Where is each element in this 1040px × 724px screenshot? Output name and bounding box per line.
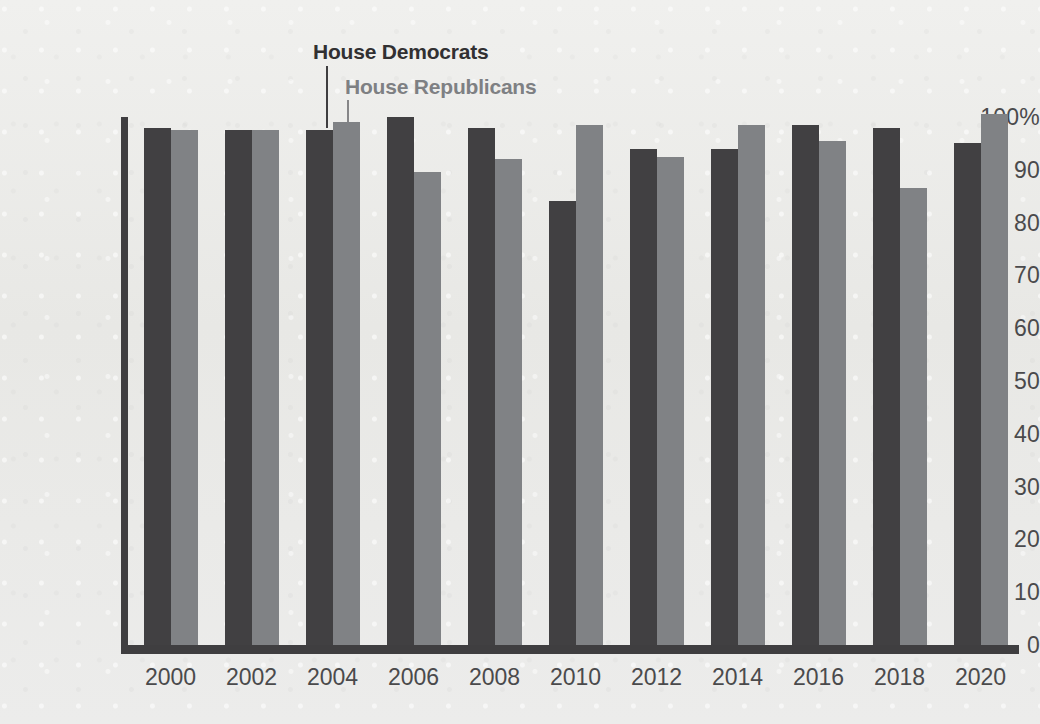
x-axis-tick-2006: 2006 — [388, 664, 439, 691]
x-axis-tick-2018: 2018 — [874, 664, 925, 691]
bar-2006-democrats — [387, 117, 414, 645]
x-axis-tick-2012: 2012 — [631, 664, 682, 691]
bar-2008-republicans — [495, 159, 522, 645]
legend-leader-line-democrats — [326, 66, 328, 128]
bar-2004-republicans — [333, 122, 360, 645]
y-axis-line — [121, 117, 128, 645]
bar-2016-democrats — [792, 125, 819, 645]
bar-2008-democrats — [468, 128, 495, 645]
bar-2010-republicans — [576, 125, 603, 645]
bar-2004-democrats — [306, 130, 333, 645]
x-axis-line — [121, 645, 1019, 654]
legend-leader-line-republicans — [347, 100, 349, 122]
bar-2016-republicans — [819, 141, 846, 645]
bar-group-2004 — [306, 117, 360, 645]
x-axis-tick-2016: 2016 — [793, 664, 844, 691]
x-axis-tick-2008: 2008 — [469, 664, 520, 691]
bar-2000-republicans — [171, 130, 198, 645]
grouped-bar-chart: 100%9080706050403020100 2000200220042006… — [0, 0, 1040, 724]
legend-label-house-democrats: House Democrats — [313, 40, 489, 64]
x-axis-tick-2000: 2000 — [145, 664, 196, 691]
x-axis-tick-2004: 2004 — [307, 664, 358, 691]
bar-group-2012 — [630, 117, 684, 645]
bar-2014-republicans — [738, 125, 765, 645]
bar-2012-republicans — [657, 157, 684, 645]
x-axis-tick-2020: 2020 — [955, 664, 1006, 691]
bar-group-2008 — [468, 117, 522, 645]
bar-2012-democrats — [630, 149, 657, 645]
bar-2002-democrats — [225, 130, 252, 645]
bar-group-2002 — [225, 117, 279, 645]
legend-label-house-republicans: House Republicans — [345, 75, 536, 99]
bar-2014-democrats — [711, 149, 738, 645]
bar-group-2010 — [549, 117, 603, 645]
bar-2006-republicans — [414, 172, 441, 645]
bar-2020-democrats — [954, 143, 981, 645]
bar-2000-democrats — [144, 128, 171, 645]
bar-2002-republicans — [252, 130, 279, 645]
x-axis-tick-2014: 2014 — [712, 664, 763, 691]
bar-2010-democrats — [549, 201, 576, 645]
bar-2018-republicans — [900, 188, 927, 645]
bar-2020-republicans — [981, 114, 1008, 645]
bar-group-2016 — [792, 117, 846, 645]
bar-group-2014 — [711, 117, 765, 645]
x-axis-tick-2002: 2002 — [226, 664, 277, 691]
bar-group-2020 — [954, 117, 1008, 645]
plot-area — [128, 117, 1019, 645]
bar-2018-democrats — [873, 128, 900, 645]
x-axis-tick-2010: 2010 — [550, 664, 601, 691]
bar-group-2000 — [144, 117, 198, 645]
bar-group-2006 — [387, 117, 441, 645]
bar-group-2018 — [873, 117, 927, 645]
